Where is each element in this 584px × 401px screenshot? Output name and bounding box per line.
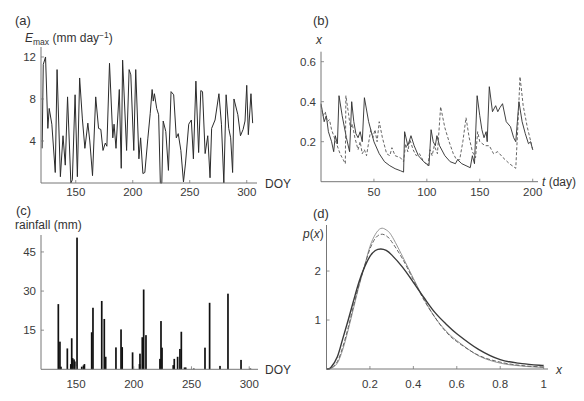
data-line-E_max [42, 57, 253, 183]
rain-bar [145, 335, 147, 369]
rain-bar [173, 359, 175, 369]
panel-c: (c) rainfall (mm) DOY 150200250300153045 [15, 203, 291, 390]
x-tick-label: 300 [240, 378, 259, 390]
x-tick-label: 200 [124, 378, 143, 390]
data-line-thick-solid [327, 249, 544, 369]
y-tick-label: 0.6 [300, 56, 316, 68]
rain-bar [59, 342, 61, 370]
panel-b-plot: 501001502000.20.40.6 [300, 52, 542, 198]
x-axis-label: DOY [265, 177, 291, 191]
panel-b: (b) x t (day) 501001502000.20.40.6 [300, 13, 576, 198]
rain-bar [105, 357, 107, 370]
rain-bar [121, 347, 123, 369]
rain-bar [143, 290, 145, 370]
panel-c-plot: 150200250300153045 [23, 235, 259, 390]
rain-bar [177, 357, 179, 370]
panel-d: (d) p(x) x 0.20.40.60.8112 [302, 206, 563, 390]
rain-bar [227, 294, 229, 370]
panel-label: (a) [15, 13, 31, 28]
rain-bar [57, 304, 59, 369]
rain-bar [92, 308, 94, 370]
panel-a: (a) Emax (mm day−1) DOY 1502002503004812 [15, 13, 291, 198]
x-tick-label: 150 [66, 186, 85, 198]
x-axis-label: t (day) [542, 175, 576, 189]
rain-bar [139, 354, 141, 370]
y-axis-label: rainfall (mm) [15, 218, 82, 232]
rain-bar [66, 348, 68, 369]
rain-bar [180, 332, 182, 370]
rain-bar [74, 361, 76, 369]
x-tick-label: 300 [237, 186, 256, 198]
rain-bar [240, 360, 242, 369]
x-axis-label: x [555, 363, 563, 377]
y-tick-label: 0.2 [300, 136, 316, 148]
x-tick-label: 0.4 [405, 378, 422, 390]
rain-bar [161, 348, 163, 370]
rain-bar [132, 352, 134, 369]
panel-label: (c) [16, 203, 31, 218]
x-tick-label: 50 [368, 186, 381, 198]
x-tick-label: 150 [470, 186, 489, 198]
x-tick-label: 1 [540, 378, 546, 390]
rain-bar [115, 347, 117, 369]
x-tick-label: 200 [123, 186, 142, 198]
x-tick-label: 0.2 [362, 378, 378, 390]
rain-bar [219, 366, 221, 369]
y-axis-close: ) [109, 31, 113, 45]
x-axis-label: DOY [265, 363, 291, 377]
panel-a-plot: 1502002503004812 [23, 47, 257, 198]
figure: (a) Emax (mm day−1) DOY 1502002503004812… [0, 0, 584, 401]
panel-d-plot: 0.20.40.60.8112 [315, 225, 548, 390]
y-tick-label: 1 [315, 314, 321, 326]
figure-canvas: (a) Emax (mm day−1) DOY 1502002503004812… [0, 0, 584, 401]
rain-bar [101, 301, 103, 369]
rain-bar [84, 364, 86, 369]
y-axis-label: Emax (mm day−1) [25, 30, 113, 47]
x-tick-label: 0.6 [449, 378, 465, 390]
y-axis-subscript: max [33, 37, 50, 47]
data-line-solid [321, 87, 533, 172]
x-axis-unit: (day) [545, 175, 576, 189]
y-axis-label: p(x) [302, 227, 324, 241]
x-tick-label: 150 [66, 378, 85, 390]
y-axis-unit: (mm day [49, 31, 99, 45]
y-tick-label: 45 [23, 246, 36, 258]
rain-bar [76, 238, 78, 370]
y-tick-label: 30 [23, 285, 36, 297]
y-tick-label: 0.4 [300, 96, 317, 108]
x-tick-label: 200 [523, 186, 542, 198]
y-tick-label: 4 [30, 135, 37, 147]
y-tick-label: 8 [30, 93, 36, 105]
y-tick-label: 2 [315, 265, 321, 277]
x-tick-label: 250 [180, 186, 199, 198]
data-line-dashed [327, 234, 544, 369]
data-line-dashed [321, 77, 533, 169]
panel-label: (b) [313, 13, 329, 28]
y-tick-label: 12 [23, 51, 36, 63]
data-line-thin-solid [327, 228, 544, 369]
y-axis-superscript: −1 [99, 30, 109, 40]
y-axis-label: x [315, 33, 323, 47]
x-tick-label: 250 [182, 378, 201, 390]
x-tick-label: 100 [417, 186, 436, 198]
rain-bar [209, 303, 211, 369]
x-tick-label: 0.8 [492, 378, 508, 390]
rain-bar [204, 348, 206, 370]
panel-label: (d) [313, 206, 329, 221]
y-tick-label: 15 [23, 324, 36, 336]
y-axis-close: ) [320, 227, 324, 241]
